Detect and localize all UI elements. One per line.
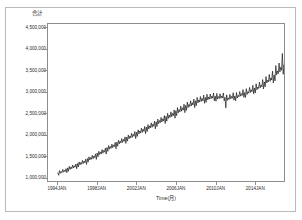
- y-tick-label: 3,000,000: [2, 89, 46, 94]
- x-tick-label: 1998JAN: [87, 186, 106, 192]
- x-tick-label: 2002JAN: [127, 186, 146, 192]
- x-tick-mark: [97, 182, 98, 185]
- y-tick-label: 2,000,000: [2, 132, 46, 137]
- y-tick-label: 1,000,000: [2, 175, 46, 180]
- x-tick-mark: [176, 182, 177, 185]
- x-axis-label: Time(月): [47, 195, 285, 202]
- y-tick-label: 4,500,000: [2, 25, 46, 30]
- y-tick-label: 1,500,000: [2, 154, 46, 159]
- plot-area: [47, 23, 285, 182]
- series-line: [48, 24, 284, 181]
- x-tick-mark: [57, 182, 58, 185]
- x-axis-ticks: 1994JAN1998JAN2002JAN2006JAN2010JAN2014J…: [47, 182, 285, 196]
- x-tick-label: 1994JAN: [47, 186, 66, 192]
- y-tick-label: 3,500,000: [2, 68, 46, 73]
- y-axis-label: 合計: [32, 10, 42, 17]
- y-tick-label: 4,000,000: [2, 46, 46, 51]
- x-tick-mark: [136, 182, 137, 185]
- x-tick-mark: [255, 182, 256, 185]
- y-tick-label: 2,500,000: [2, 111, 46, 116]
- x-tick-label: 2014JAN: [246, 186, 265, 192]
- x-tick-label: 2006JAN: [166, 186, 185, 192]
- chart-figure: 合計 1,000,0001,500,0002,000,0002,500,0003…: [0, 0, 302, 220]
- x-tick-label: 2010JAN: [206, 186, 225, 192]
- x-tick-mark: [216, 182, 217, 185]
- y-axis-ticks: 1,000,0001,500,0002,000,0002,500,0003,00…: [0, 23, 46, 182]
